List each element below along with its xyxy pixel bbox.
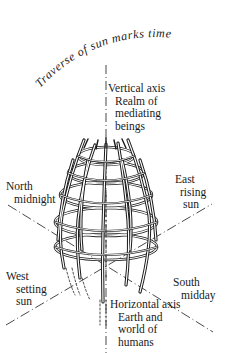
label-line: rising — [175, 186, 206, 199]
label-line: Horizontal axis — [110, 298, 181, 311]
arc-caption: Traverse of sun marks time — [32, 26, 172, 90]
label-line: beings — [108, 120, 165, 133]
label-line: Realm of — [108, 95, 165, 108]
hidden-rib-extensions — [66, 268, 106, 325]
label-line: East — [175, 173, 206, 186]
label-line: setting — [6, 283, 47, 296]
label-north: North midnight — [6, 180, 56, 205]
label-line: North — [6, 180, 56, 193]
label-horizontal-axis: Horizontal axis Earth and world of human… — [110, 298, 181, 348]
label-line: Vertical axis — [108, 82, 165, 95]
label-line: midnight — [6, 193, 56, 206]
label-line: Earth and — [110, 311, 181, 324]
label-line: sun — [175, 198, 206, 211]
label-vertical-axis: Vertical axis Realm of mediating beings — [108, 82, 165, 132]
label-line: world of — [110, 323, 181, 336]
label-east: East rising sun — [175, 173, 206, 211]
label-line: mediating — [108, 107, 165, 120]
label-line: South — [173, 276, 216, 289]
label-line: West — [6, 270, 47, 283]
label-line: sun — [6, 295, 47, 308]
label-west: West setting sun — [6, 270, 47, 308]
label-line: humans — [110, 336, 181, 349]
